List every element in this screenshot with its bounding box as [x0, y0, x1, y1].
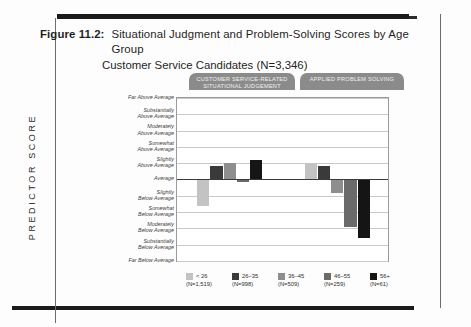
y-axis-tick-label: SubstantiallyBelow Average — [62, 238, 174, 250]
legend: < 26(N=1,519)26–35(N=998)36–45(N=509)46–… — [186, 272, 416, 288]
y-axis-tick-label: SubstantiallyAbove Average — [62, 107, 174, 119]
bar — [358, 180, 370, 239]
y-axis-tick-label: ModeratelyAbove Average — [62, 123, 174, 135]
y-axis-tick-label: SlightlyBelow Average — [62, 189, 174, 201]
figure-title-line-1: Situational Judgment and Problem-Solving… — [112, 27, 440, 57]
legend-swatch — [278, 273, 285, 280]
group-header-applied-problem-solving: APPLIED PROBLEM SOLVING — [300, 73, 404, 90]
legend-count: (N=998) — [232, 280, 278, 288]
y-axis-tick-label: Average — [62, 175, 174, 181]
right-border — [440, 14, 441, 308]
y-axis-tick-label: SomewhatBelow Average — [62, 205, 174, 217]
plot-area — [176, 97, 389, 262]
legend-item: 26–35(N=998) — [232, 272, 278, 288]
gridline — [177, 131, 388, 132]
gridline — [177, 163, 388, 164]
legend-label: 36–45 — [288, 272, 304, 280]
gridline — [177, 228, 388, 229]
y-axis-tick-label: Far Above Average — [62, 94, 174, 100]
y-axis-tick-label: SlightlyAbove Average — [62, 156, 174, 168]
bar — [237, 180, 249, 182]
y-axis-tick-label: SomewhatAbove Average — [62, 140, 174, 152]
legend-label: < 26 — [196, 272, 207, 280]
y-axis-title: PREDICTOR SCORE — [27, 112, 37, 242]
bar — [331, 180, 343, 193]
top-rule-tail — [409, 16, 417, 19]
figure-number: Figure 11.2: — [40, 27, 105, 42]
bar — [305, 163, 317, 179]
legend-count: (N=61) — [370, 280, 416, 288]
bar — [250, 160, 262, 180]
gridline — [177, 114, 388, 115]
legend-swatch — [324, 273, 331, 280]
gridline — [177, 147, 388, 148]
bottom-rule — [12, 306, 414, 310]
legend-item: < 26(N=1,519) — [186, 272, 232, 288]
bar — [224, 163, 236, 179]
legend-swatch — [370, 273, 377, 280]
figure-page: Figure 11.2: Situational Judgment and Pr… — [0, 0, 471, 327]
bar — [318, 166, 330, 180]
legend-swatch — [232, 273, 239, 280]
legend-label: 46–55 — [334, 272, 350, 280]
y-axis-tick-label: ModeratelyBelow Average — [62, 221, 174, 233]
y-axis-tick-label: Far Below Average — [62, 257, 174, 263]
bar — [210, 166, 222, 179]
top-rule — [57, 14, 409, 19]
legend-label: 26–35 — [242, 272, 258, 280]
legend-count: (N=1,519) — [186, 280, 232, 288]
legend-item: 36–45(N=509) — [278, 272, 324, 288]
gridline — [177, 261, 388, 262]
gridline — [177, 245, 388, 246]
bar — [197, 180, 209, 206]
figure-title-line-2: Customer Service Candidates (N=3,346) — [102, 57, 440, 73]
legend-swatch — [186, 273, 193, 280]
legend-label: 56+ — [380, 272, 390, 280]
y-axis-tick-labels: Far Above AverageSubstantiallyAbove Aver… — [58, 97, 174, 262]
group-header-situational-judgement: CUSTOMER SERVICE-RELATED SITUATIONAL JUD… — [189, 73, 295, 90]
legend-item: 56+(N=61) — [370, 272, 416, 288]
legend-item: 46–55(N=259) — [324, 272, 370, 288]
gridline — [177, 98, 388, 99]
bar — [344, 180, 356, 227]
figure-title: Figure 11.2: Situational Judgment and Pr… — [40, 27, 440, 73]
legend-count: (N=509) — [278, 280, 324, 288]
legend-count: (N=259) — [324, 280, 370, 288]
